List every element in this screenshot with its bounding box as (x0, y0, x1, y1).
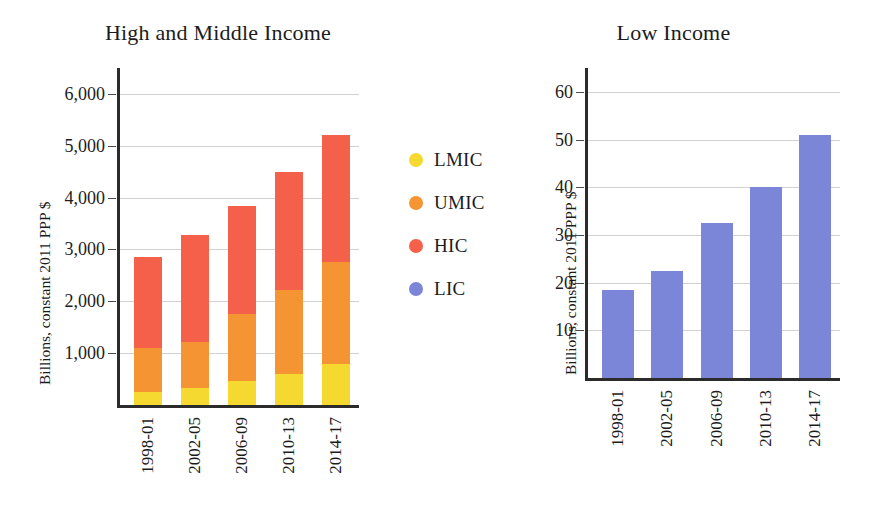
y-tick-label: 10 (555, 321, 573, 339)
y-axis-tick (576, 330, 584, 331)
bar-segment-umic[interactable] (322, 262, 350, 363)
legend-swatch-icon (409, 282, 423, 296)
bar-segment-lmic[interactable] (228, 381, 256, 405)
legend-item-hic[interactable]: HIC (409, 224, 485, 267)
bar-segment-hic[interactable] (322, 135, 350, 262)
bar-segment-umic[interactable] (134, 348, 162, 392)
bar-group[interactable] (750, 187, 782, 378)
y-tick-label: 3,000 (65, 240, 106, 258)
bar-segment-lmic[interactable] (275, 374, 303, 405)
bar-segment-hic[interactable] (228, 206, 256, 314)
legend-item-lic[interactable]: LIC (409, 267, 485, 310)
y-axis-line-right (585, 68, 588, 378)
bar-segment-hic[interactable] (181, 235, 209, 342)
bar-segment-hic[interactable] (134, 257, 162, 348)
bar-segment-umic[interactable] (275, 290, 303, 374)
legend-label: HIC (434, 235, 468, 257)
y-axis-tick (576, 235, 584, 236)
x-tick-label: 2002-05 (185, 417, 205, 474)
y-axis-tick (576, 140, 584, 141)
bar-group[interactable] (228, 206, 256, 405)
y-tick-label: 20 (555, 274, 573, 292)
y-tick-label: 6,000 (65, 85, 106, 103)
legend-swatch-icon (409, 239, 423, 253)
legend: LMICUMICHICLIC (409, 138, 485, 310)
y-tick-label: 60 (555, 83, 573, 101)
bar-group[interactable] (602, 290, 634, 378)
x-axis-line-right (585, 378, 840, 381)
bar-group[interactable] (322, 135, 350, 405)
y-tick-label: 1,000 (65, 344, 106, 362)
bar-segment-lic[interactable] (651, 271, 683, 378)
bar-group[interactable] (651, 271, 683, 378)
figure: High and Middle Income Billions, constan… (0, 0, 879, 510)
bar-segment-lic[interactable] (750, 187, 782, 378)
chart-title-right: Low Income (504, 20, 843, 46)
y-axis-tick (576, 92, 584, 93)
legend-label: UMIC (434, 192, 485, 214)
bar-group[interactable] (799, 135, 831, 378)
x-tick-label: 2014-17 (805, 390, 825, 447)
chart-panel-low-income: Low Income Billions, constant 2011 PPP $… (540, 0, 879, 510)
gridline (120, 94, 359, 95)
y-tick-label: 5,000 (65, 137, 106, 155)
gridline (588, 92, 840, 93)
x-tick-label: 2002-05 (657, 390, 677, 447)
x-tick-label: 2006-09 (707, 390, 727, 447)
x-tick-label: 2010-13 (279, 417, 299, 474)
x-tick-label: 1998-01 (608, 390, 628, 447)
bar-segment-lmic[interactable] (322, 364, 350, 405)
y-tick-label: 4,000 (65, 189, 106, 207)
y-axis-line-left (117, 68, 120, 405)
y-axis-label-left: Billions, constant 2011 PPP $ (36, 201, 54, 385)
bar-group[interactable] (181, 235, 209, 405)
bar-segment-lmic[interactable] (134, 392, 162, 405)
legend-swatch-icon (409, 196, 423, 210)
legend-label: LIC (434, 278, 466, 300)
legend-item-lmic[interactable]: LMIC (409, 138, 485, 181)
x-axis-line-left (117, 405, 359, 408)
y-axis-tick (576, 187, 584, 188)
y-axis-tick (576, 283, 584, 284)
x-tick-label: 2006-09 (232, 417, 252, 474)
chart-title-left: High and Middle Income (0, 20, 488, 46)
bar-segment-lic[interactable] (602, 290, 634, 378)
x-tick-label: 2014-17 (326, 417, 346, 474)
x-tick-label: 2010-13 (756, 390, 776, 447)
bar-segment-hic[interactable] (275, 172, 303, 290)
bar-segment-umic[interactable] (228, 314, 256, 380)
legend-label: LMIC (434, 149, 483, 171)
legend-swatch-icon (409, 153, 423, 167)
y-tick-label: 50 (555, 131, 573, 149)
bar-segment-lic[interactable] (799, 135, 831, 378)
y-axis-tick (108, 198, 116, 199)
y-axis-tick (108, 94, 116, 95)
y-axis-tick (108, 301, 116, 302)
bar-segment-umic[interactable] (181, 342, 209, 388)
bar-segment-lmic[interactable] (181, 388, 209, 405)
y-tick-label: 2,000 (65, 292, 106, 310)
y-axis-tick (108, 146, 116, 147)
bar-segment-lic[interactable] (701, 223, 733, 378)
plot-area-right: 102030405060 1998-012002-052006-092010-1… (585, 68, 840, 378)
legend-item-umic[interactable]: UMIC (409, 181, 485, 224)
x-tick-label: 1998-01 (138, 417, 158, 474)
y-tick-label: 40 (555, 178, 573, 196)
plot-area-left: 1,0002,0003,0004,0005,0006,000 1998-0120… (117, 68, 359, 405)
bar-group[interactable] (134, 257, 162, 405)
y-tick-label: 30 (555, 226, 573, 244)
bar-group[interactable] (701, 223, 733, 378)
bar-group[interactable] (275, 172, 303, 405)
y-axis-tick (108, 353, 116, 354)
y-axis-tick (108, 249, 116, 250)
